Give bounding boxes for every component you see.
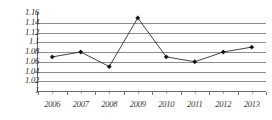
data-series-layer <box>0 0 272 120</box>
data-point-marker <box>221 50 225 54</box>
data-point-marker <box>50 55 54 59</box>
series-markers <box>50 16 254 69</box>
data-point-marker <box>107 64 111 68</box>
series-line <box>52 18 252 67</box>
line-chart: 1.161.141.121.11.081.061.041.021 2006200… <box>0 0 272 120</box>
data-point-marker <box>193 60 197 64</box>
data-point-marker <box>79 50 83 54</box>
data-point-marker <box>250 45 254 49</box>
